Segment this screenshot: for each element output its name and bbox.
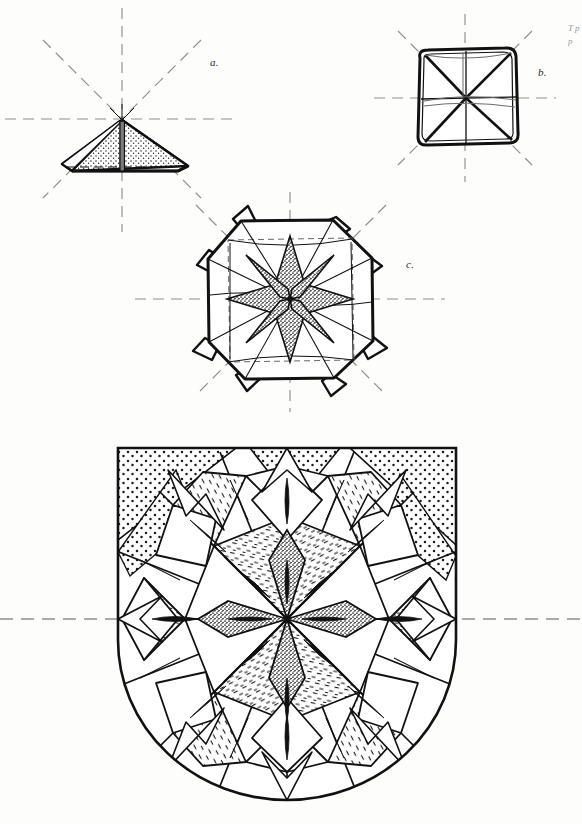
figure-b-form [418, 48, 518, 145]
illustration-plate: a. b. c. T p p [0, 0, 582, 824]
figure-d-interior [116, 440, 458, 805]
figure-label-a: a. [210, 56, 219, 68]
plate-svg [0, 0, 582, 824]
margin-text-fragment: T p p [568, 22, 582, 48]
figure-label-b: b. [538, 66, 547, 78]
figure-label-c: c. [406, 258, 414, 270]
